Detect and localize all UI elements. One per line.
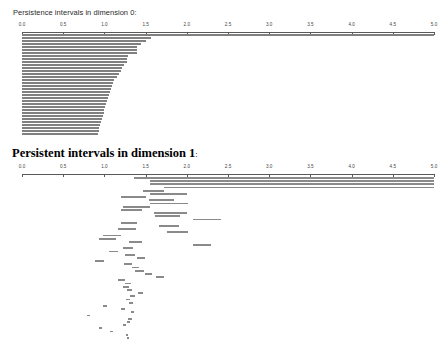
- axis-tick-label: 2.0: [184, 22, 190, 28]
- axis-tick-label: 1.5: [142, 22, 148, 28]
- interval-bar: [22, 82, 113, 84]
- axis-tick-label: 4.5: [390, 22, 396, 28]
- axis-tick-label: 4.5: [390, 164, 396, 170]
- interval-bar: [127, 289, 132, 291]
- interval-bar: [123, 247, 134, 249]
- interval-bar: [22, 64, 124, 66]
- interval-bar: [123, 324, 126, 326]
- axis-tick-label: 1.0: [101, 164, 107, 170]
- interval-bar: [22, 55, 128, 57]
- interval-bar: [123, 206, 149, 208]
- panel-1-title-text: Persistent intervals in dimension 1: [12, 146, 195, 160]
- interval-bar: [22, 61, 127, 63]
- interval-bar: [150, 203, 189, 205]
- interval-bar: [126, 334, 128, 336]
- interval-bar: [22, 37, 151, 39]
- interval-bar: [22, 97, 108, 99]
- interval-bar: [155, 215, 180, 217]
- interval-bar: [159, 225, 180, 227]
- interval-bar: [95, 260, 104, 262]
- interval-bar: [99, 238, 115, 240]
- interval-bar: [149, 199, 175, 201]
- interval-bar: [22, 94, 109, 96]
- interval-bar: [103, 305, 107, 307]
- interval-bar: [125, 254, 135, 256]
- interval-bar: [22, 112, 104, 114]
- interval-bar: [138, 292, 143, 294]
- interval-bar: [130, 295, 135, 297]
- interval-bar: [131, 311, 134, 313]
- interval-bar: [156, 276, 163, 278]
- interval-bar: [129, 241, 142, 243]
- axis-tick-label: 1.0: [101, 22, 107, 28]
- interval-bar: [22, 130, 99, 132]
- interval-bar: [22, 124, 100, 126]
- interval-bar: [22, 43, 141, 45]
- interval-bar: [22, 76, 117, 78]
- interval-bar: [150, 180, 434, 182]
- interval-bar: [22, 115, 103, 117]
- interval-bar: [22, 40, 146, 42]
- interval-bar: [109, 251, 119, 253]
- interval-bar: [128, 318, 131, 320]
- interval-bar: [121, 222, 137, 224]
- interval-bar: [150, 193, 187, 195]
- interval-bar: [22, 58, 127, 60]
- axis-tick-label: 4.0: [348, 22, 354, 28]
- interval-bar: [22, 49, 137, 51]
- interval-bar: [126, 299, 130, 301]
- interval-bar: [137, 257, 145, 259]
- axis-tick-label: 3.0: [266, 22, 272, 28]
- interval-bar: [22, 133, 98, 135]
- panel-1-title: Persistent intervals in dimension 1:: [12, 146, 198, 161]
- interval-bar: [22, 52, 137, 54]
- interval-bar: [22, 121, 101, 123]
- interval-bar: [22, 109, 104, 111]
- interval-bar: [150, 183, 434, 185]
- axis-tick-label: 2.0: [184, 164, 190, 170]
- interval-bar: [22, 88, 111, 90]
- axis-tick-label: 0.0: [19, 164, 25, 170]
- axis-tick-label: 1.5: [142, 164, 148, 170]
- axis-tick-label: 5.0: [431, 164, 437, 170]
- plot-dimension-0: [0, 34, 447, 138]
- interval-bar: [123, 286, 129, 288]
- interval-bar: [22, 67, 122, 69]
- axis-tick-label: 4.0: [348, 164, 354, 170]
- axis-tick-label: 2.5: [225, 164, 231, 170]
- interval-bar: [167, 231, 188, 233]
- interval-bar: [127, 321, 130, 323]
- interval-bar: [135, 270, 144, 272]
- interval-bar: [125, 283, 131, 285]
- interval-bar: [124, 263, 132, 265]
- interval-bar: [99, 327, 101, 329]
- interval-bar: [22, 106, 105, 108]
- panel-0-title: Persistence intervals in dimension 0:: [13, 8, 137, 17]
- interval-bar: [143, 190, 164, 192]
- interval-bar: [132, 267, 139, 269]
- interval-bar: [118, 228, 135, 230]
- interval-bar: [22, 103, 106, 105]
- interval-bar: [22, 73, 119, 75]
- axis-tick-label: 0.5: [60, 164, 66, 170]
- axis-tick-label: 3.0: [266, 164, 272, 170]
- interval-bar: [193, 219, 221, 221]
- interval-bar: [154, 212, 187, 214]
- interval-bar: [193, 244, 211, 246]
- interval-bar: [121, 209, 142, 211]
- panel-1-title-colon: :: [195, 149, 198, 159]
- interval-bar: [129, 302, 133, 304]
- interval-bar: [22, 46, 137, 48]
- axis-tick-label: 5.0: [431, 22, 437, 28]
- interval-bar: [22, 85, 112, 87]
- interval-bar: [121, 196, 147, 198]
- interval-bar: [164, 187, 434, 189]
- axis-tick-label: 0.0: [19, 22, 25, 28]
- axis-tick-label: 3.5: [307, 22, 313, 28]
- interval-bar: [87, 315, 90, 317]
- interval-bar: [22, 70, 121, 72]
- interval-bar: [22, 127, 99, 129]
- interval-bar: [121, 308, 125, 310]
- barcode-figure: Persistence intervals in dimension 0: 0.…: [0, 0, 447, 342]
- interval-bar: [22, 91, 110, 93]
